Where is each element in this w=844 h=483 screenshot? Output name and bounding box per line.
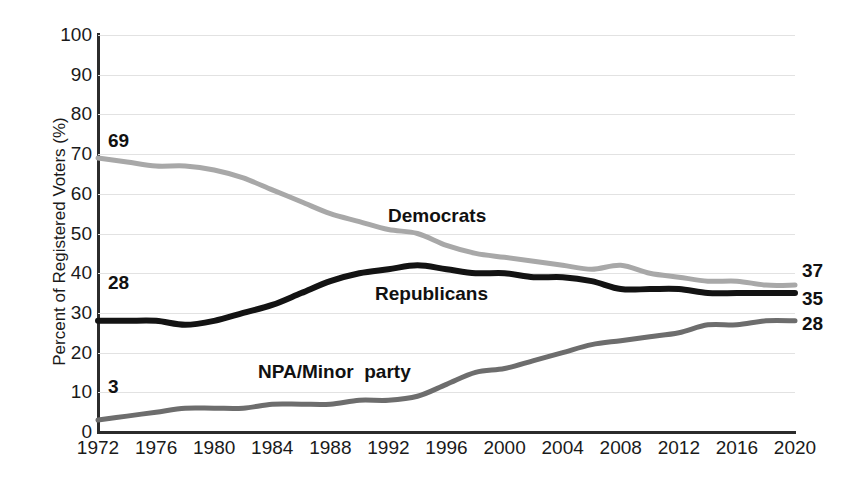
x-tick-label: 2016: [716, 437, 758, 459]
x-tick-label: 1988: [309, 437, 351, 459]
x-tick-label: 1992: [367, 437, 409, 459]
x-tick-label: 2000: [483, 437, 525, 459]
value-callout: 28: [108, 272, 129, 294]
value-callout: 28: [802, 313, 823, 335]
x-tick-label: 2008: [600, 437, 642, 459]
y-tick-label: 90: [46, 64, 92, 86]
y-tick-label: 80: [46, 103, 92, 125]
series-label-democrats: Democrats: [388, 205, 486, 227]
value-callout: 69: [108, 130, 129, 152]
series-line-npa-minor-party: [98, 321, 795, 421]
plot-area: [98, 35, 795, 432]
y-tick-label: 60: [46, 183, 92, 205]
x-tick-label: 1976: [135, 437, 177, 459]
y-tick-label: 50: [46, 223, 92, 245]
y-tick-label: 100: [46, 24, 92, 46]
x-tick-label: 1980: [193, 437, 235, 459]
x-tick-label: 2020: [774, 437, 816, 459]
series-label-npa-minor-party: NPA/Minor party: [258, 361, 411, 383]
x-tick-label: 2012: [658, 437, 700, 459]
y-tick-label: 10: [46, 381, 92, 403]
series-lines: [98, 35, 795, 432]
value-callout: 37: [802, 260, 823, 282]
chart-container: Percent of Registered Voters (%) 1009080…: [0, 0, 844, 483]
value-callout: 35: [802, 288, 823, 310]
value-callout: 3: [108, 376, 119, 398]
y-tick-label: 20: [46, 342, 92, 364]
x-tick-label: 2004: [542, 437, 584, 459]
series-label-republicans: Republicans: [375, 283, 488, 305]
y-axis-tick-labels: 1009080706050403020100: [40, 0, 92, 483]
x-tick-label: 1972: [77, 437, 119, 459]
y-tick-label: 40: [46, 262, 92, 284]
x-tick-label: 1984: [251, 437, 293, 459]
y-tick-label: 70: [46, 143, 92, 165]
x-tick-label: 1996: [425, 437, 467, 459]
y-tick-label: 30: [46, 302, 92, 324]
